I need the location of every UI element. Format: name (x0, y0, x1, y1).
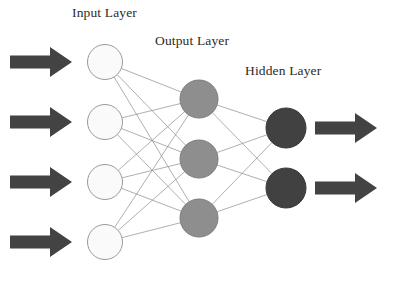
connection-line (118, 172, 185, 231)
hidden-layer-label: Hidden Layer (245, 64, 321, 78)
input-flow-arrow-in-arrow-2 (10, 107, 72, 137)
neuron-node-h2 (266, 168, 306, 208)
input-layer-label: Input Layer (72, 6, 137, 20)
connection-line (122, 223, 181, 238)
connection-line (212, 142, 272, 204)
connection-line (217, 105, 267, 122)
connection-line (121, 188, 181, 211)
connection-line (212, 113, 272, 174)
neuron-node-m2 (180, 140, 218, 178)
neuron-node-m3 (180, 199, 218, 237)
input-flow-arrow-in-arrow-3 (10, 167, 72, 197)
neuron-node-m1 (180, 80, 218, 118)
connection-line (114, 77, 189, 202)
input-flow-arrow-in-arrow-1 (10, 47, 72, 77)
connection-line (122, 104, 181, 118)
output-flow-arrow-out-arrow-1 (315, 113, 377, 143)
connection-line (217, 135, 267, 153)
input-flow-arrow-in-arrow-4 (10, 227, 72, 257)
output-layer-label: Output Layer (155, 34, 229, 48)
neuron-node-i4 (88, 225, 123, 260)
neuron-node-h1 (266, 108, 306, 148)
connection-line (122, 164, 181, 178)
neuron-node-i3 (88, 165, 123, 200)
output-flow-arrow-out-arrow-2 (315, 173, 377, 203)
connection-line (117, 135, 185, 205)
neuron-node-i1 (88, 45, 123, 80)
connection-line (118, 112, 185, 171)
connection-line (115, 115, 189, 228)
neuron-node-i2 (88, 105, 123, 140)
connection-line (217, 195, 267, 212)
neural-network-diagram: Input Layer Output Layer Hidden Layer (0, 0, 397, 288)
